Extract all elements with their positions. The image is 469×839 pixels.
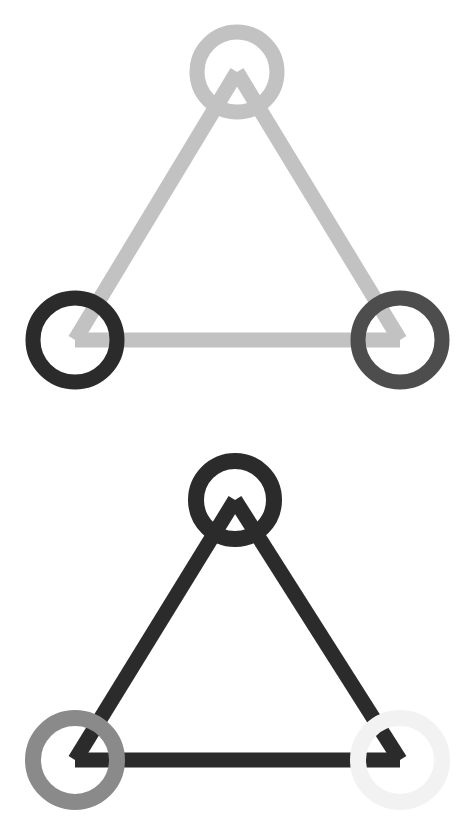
diagram-canvas bbox=[0, 0, 469, 839]
graph-svg-bottom bbox=[0, 420, 469, 839]
graph-figure-bottom bbox=[0, 420, 469, 839]
graph-svg-top bbox=[0, 0, 469, 420]
graph-figure-top bbox=[0, 0, 469, 420]
